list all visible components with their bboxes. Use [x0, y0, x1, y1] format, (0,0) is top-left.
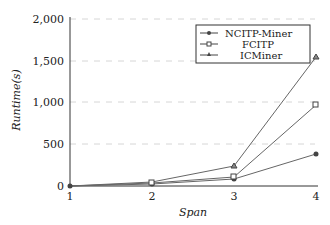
line-chart: 0 500 1,000 1,500 2,000 1 2 3 4 Span Run… — [0, 0, 330, 225]
svg-text:1,000: 1,000 — [33, 96, 65, 109]
markers — [68, 54, 320, 189]
svg-text:2: 2 — [149, 190, 156, 203]
legend: NCITP-Miner FCITP ICMiner — [196, 25, 310, 63]
y-tick-labels: 0 500 1,000 1,500 2,000 — [33, 13, 65, 193]
svg-text:500: 500 — [43, 138, 64, 151]
y-axis-label: Runtime(s) — [10, 69, 23, 132]
x-tick-labels: 1 2 3 4 — [67, 190, 320, 203]
svg-text:2,000: 2,000 — [33, 13, 65, 26]
svg-text:0: 0 — [57, 180, 64, 193]
svg-text:3: 3 — [231, 190, 238, 203]
svg-text:ICMiner: ICMiner — [240, 50, 282, 61]
svg-text:1: 1 — [67, 190, 74, 203]
series-lines — [70, 57, 316, 186]
chart: 0 500 1,000 1,500 2,000 1 2 3 4 Span Run… — [0, 0, 330, 225]
x-axis-label: Span — [179, 206, 207, 219]
svg-text:4: 4 — [313, 190, 320, 203]
svg-text:1,500: 1,500 — [33, 55, 65, 68]
svg-text:NCITP-Miner: NCITP-Miner — [225, 28, 292, 39]
svg-text:FCITP: FCITP — [242, 39, 274, 50]
